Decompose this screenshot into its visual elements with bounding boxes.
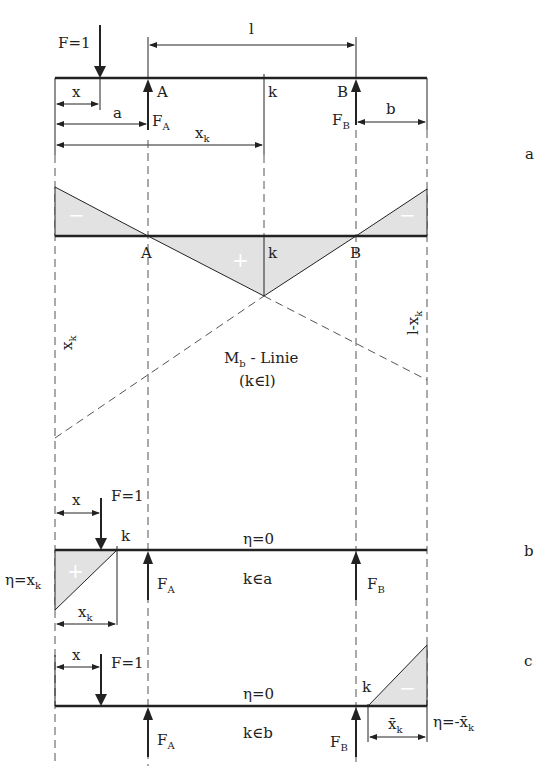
svg-text:k∈a: k∈a: [243, 570, 272, 588]
svg-text:FA: FA: [152, 112, 170, 132]
svg-text:xk: xk: [195, 124, 210, 144]
svg-text:a: a: [113, 104, 122, 122]
load-label-a: F=1: [58, 34, 91, 52]
svg-text:FB: FB: [367, 575, 385, 595]
sign-minus-right: −: [399, 203, 416, 227]
svg-text:l: l: [249, 20, 254, 38]
svg-text:B: B: [337, 83, 348, 101]
svg-text:η=0: η=0: [243, 530, 274, 548]
svg-text:k: k: [121, 527, 131, 545]
svg-text:Mb - Linie: Mb - Linie: [224, 349, 299, 369]
influence-line-mb: − + − A k B xk l-xk Mb - Linie (k∈l): [55, 187, 427, 390]
svg-text:+: +: [67, 559, 84, 583]
svg-text:k: k: [362, 678, 372, 696]
svg-text:b: b: [386, 100, 396, 118]
panel-a: F=1 x a xk l A FA k B FB b a: [55, 20, 534, 163]
svg-text:k: k: [268, 83, 278, 101]
svg-text:x: x: [72, 491, 81, 509]
sign-plus: +: [232, 248, 249, 272]
panel-label-b: b: [524, 542, 534, 560]
svg-text:x̄k: x̄k: [388, 715, 403, 735]
svg-text:FB: FB: [330, 733, 348, 753]
svg-text:x: x: [72, 83, 81, 101]
svg-text:η=-x̄k: η=-x̄k: [433, 713, 475, 733]
svg-text:FA: FA: [157, 575, 175, 595]
panel-label-c: c: [524, 652, 532, 670]
influence-line-diagram: F=1 x a xk l A FA k B FB b a: [0, 0, 552, 766]
svg-text:k: k: [268, 244, 278, 262]
svg-text:−: −: [399, 676, 416, 700]
svg-text:B: B: [350, 244, 361, 262]
svg-text:xk: xk: [58, 335, 78, 350]
svg-text:A: A: [156, 83, 168, 101]
svg-text:FB: FB: [332, 111, 350, 131]
svg-text:A: A: [140, 244, 152, 262]
svg-text:xk: xk: [78, 603, 93, 623]
panel-b: + F=1 x k η=0 η=xk xk FA FB k∈a b: [5, 487, 534, 625]
svg-text:x: x: [72, 646, 81, 664]
panel-label-a: a: [525, 145, 534, 163]
svg-text:FA: FA: [157, 731, 175, 751]
svg-text:(k∈l): (k∈l): [239, 372, 276, 390]
svg-text:η=0: η=0: [243, 685, 274, 703]
svg-text:l-xk: l-xk: [404, 310, 424, 335]
svg-text:F=1: F=1: [111, 487, 144, 505]
sign-minus-left: −: [68, 203, 85, 227]
svg-text:F=1: F=1: [111, 654, 144, 672]
svg-text:η=xk: η=xk: [5, 571, 42, 591]
panel-c: − F=1 x η=0 k FA FB k∈b x̄k η=-x̄k c: [55, 645, 532, 757]
svg-text:k∈b: k∈b: [243, 724, 273, 742]
